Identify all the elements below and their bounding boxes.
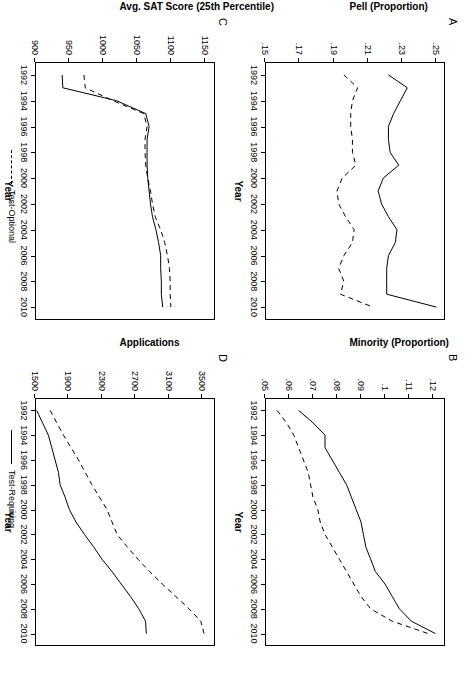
series-line-test-requiring bbox=[37, 410, 147, 633]
figure-canvas: A199219941996199820002002200420062008201… bbox=[0, 0, 467, 675]
legend-swatch-dashed bbox=[12, 150, 13, 184]
legend-swatch-solid bbox=[12, 430, 13, 464]
legend-item-test-requiring: Test-Requiring bbox=[7, 430, 17, 528]
series-line-test-optional bbox=[50, 410, 204, 633]
rotated-figure-wrapper: A199219941996199820002002200420062008201… bbox=[0, 0, 467, 675]
panel-d: D199219941996199820002002200420062008201… bbox=[0, 0, 467, 675]
legend-item-test-optional: Test-Optional bbox=[7, 150, 17, 243]
legend-label-test-requiring: Test-Requiring bbox=[7, 470, 17, 528]
series-layer-d bbox=[0, 0, 467, 675]
legend-label-test-optional: Test-Optional bbox=[7, 190, 17, 243]
